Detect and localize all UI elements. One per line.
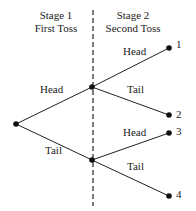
outcome-label-3: 3 <box>176 125 182 137</box>
stage2-subtitle: Second Toss <box>106 22 161 34</box>
outcome-node-4 <box>166 193 172 199</box>
label-lower-tail: Tail <box>127 160 144 172</box>
label-first-head: Head <box>40 83 64 95</box>
stage1-subtitle: First Toss <box>35 22 78 34</box>
label-upper-tail: Tail <box>127 83 144 95</box>
outcome-node-1 <box>166 45 172 51</box>
outcome-label-1: 1 <box>176 38 182 50</box>
label-lower-head: Head <box>123 126 147 138</box>
stage1-title: Stage 1 <box>40 9 73 21</box>
root-node <box>13 121 19 127</box>
outcome-label-4: 4 <box>176 188 182 200</box>
node-after-tail <box>89 157 95 163</box>
label-first-tail: Tail <box>45 144 62 156</box>
outcome-label-2: 2 <box>176 108 182 120</box>
outcome-node-3 <box>166 130 172 136</box>
outcome-node-2 <box>166 112 172 118</box>
node-after-head <box>89 84 95 90</box>
stage2-title: Stage 2 <box>117 9 150 21</box>
probability-tree-diagram: Stage 1 First Toss Stage 2 Second Toss H… <box>0 0 196 211</box>
label-upper-head: Head <box>123 45 147 57</box>
